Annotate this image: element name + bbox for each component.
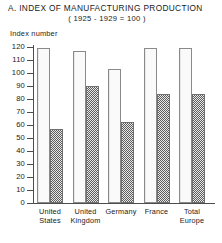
- y-tick-label-30: 30: [1, 159, 25, 168]
- y-tick-60: [27, 125, 34, 126]
- bar-dark: [121, 122, 134, 203]
- category-label-line: Europe: [170, 216, 214, 225]
- y-tick-80: [27, 99, 34, 100]
- bar-light: [37, 48, 50, 203]
- bar-dark: [86, 86, 99, 203]
- y-tick-70: [27, 112, 34, 113]
- y-tick-50: [27, 138, 34, 139]
- y-tick-label-100: 100: [1, 68, 25, 77]
- y-tick-label-120: 120: [1, 42, 25, 51]
- bar-group: [37, 47, 63, 203]
- category-label-line: Kingdom: [64, 216, 108, 225]
- category-label: TotalEurope: [170, 207, 214, 226]
- y-tick-label-90: 90: [1, 81, 25, 90]
- x-axis-baseline: [33, 203, 215, 204]
- y-tick-100: [27, 73, 34, 74]
- chart-title: A. INDEX OF MANUFACTURING PRODUCTION: [8, 3, 220, 13]
- y-tick-label-60: 60: [1, 120, 25, 129]
- y-tick-20: [27, 177, 34, 178]
- y-tick-110: [27, 60, 34, 61]
- y-tick-10: [27, 190, 34, 191]
- bar-light: [108, 69, 121, 203]
- bar-light: [179, 48, 192, 203]
- y-tick-label-40: 40: [1, 146, 25, 155]
- bar-dark: [50, 129, 63, 203]
- bar-light: [144, 48, 157, 203]
- y-tick-40: [27, 151, 34, 152]
- y-axis-title: Index number: [10, 29, 58, 38]
- y-tick-90: [27, 86, 34, 87]
- plot-area: [34, 47, 214, 203]
- y-tick-label-10: 10: [1, 185, 25, 194]
- y-tick-label-50: 50: [1, 133, 25, 142]
- bar-group: [108, 47, 134, 203]
- y-tick-120: [27, 47, 34, 48]
- bar-group: [144, 47, 170, 203]
- y-tick-label-0: 0: [1, 198, 25, 207]
- y-tick-0: [27, 203, 34, 204]
- bar-group: [73, 47, 99, 203]
- chart-figure: A. INDEX OF MANUFACTURING PRODUCTION ( 1…: [0, 0, 222, 243]
- chart-subtitle: ( 1925 - 1929 = 100 ): [0, 14, 214, 23]
- bar-light: [73, 51, 86, 203]
- bar-dark: [157, 94, 170, 203]
- y-tick-label-110: 110: [1, 55, 25, 64]
- y-tick-label-70: 70: [1, 107, 25, 116]
- y-tick-label-20: 20: [1, 172, 25, 181]
- y-tick-label-80: 80: [1, 94, 25, 103]
- category-label-line: Total: [170, 207, 214, 216]
- bar-dark: [192, 94, 205, 203]
- y-tick-30: [27, 164, 34, 165]
- bar-group: [179, 47, 205, 203]
